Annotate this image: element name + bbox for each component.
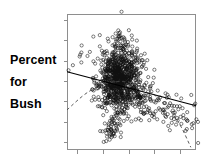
scatter-point <box>147 76 150 79</box>
scatter-point <box>131 45 134 48</box>
scatter-point <box>154 110 157 113</box>
scatter-point <box>134 105 137 108</box>
scatter-point <box>143 52 146 55</box>
scatter-point <box>126 117 129 120</box>
scatter-point <box>190 93 193 96</box>
scatter-point <box>170 121 173 124</box>
scatter-point <box>80 44 83 47</box>
scatter-point <box>98 45 101 48</box>
scatter-point <box>130 58 133 61</box>
scatter-point <box>92 35 95 38</box>
scatter-point <box>114 32 117 35</box>
x-axis-tick <box>103 150 104 154</box>
scatter-point <box>130 34 133 37</box>
x-axis-tick <box>77 150 78 154</box>
scatter-point <box>119 135 122 138</box>
scatter-point <box>90 99 93 102</box>
scatter-point <box>103 122 106 125</box>
scatter-point <box>175 93 178 96</box>
scatter-point <box>143 99 146 102</box>
scatter-point <box>135 39 138 42</box>
scatter-point <box>134 118 137 121</box>
scatter-point <box>106 52 109 55</box>
plot-area <box>67 14 196 150</box>
scatter-point <box>100 63 103 66</box>
scatter-point <box>98 34 101 37</box>
scatter-point <box>146 59 149 62</box>
scatter-point <box>101 130 104 133</box>
scatter-point <box>86 54 89 57</box>
scatter-point <box>80 61 83 64</box>
scatter-point <box>180 97 183 100</box>
scatter-point <box>120 10 123 13</box>
scatter-point <box>148 119 151 122</box>
scatter-point <box>92 95 95 98</box>
scatter-point <box>153 68 156 71</box>
scatter-point <box>181 107 184 110</box>
scatter-point <box>139 110 142 113</box>
scatter-point <box>162 120 165 123</box>
scatter-point <box>168 129 171 132</box>
scatter-point <box>100 98 103 101</box>
scatter-point <box>136 61 139 64</box>
scatter-point <box>96 57 99 60</box>
scatter-point <box>167 124 170 127</box>
scatter-point <box>186 111 189 114</box>
scatter-point <box>127 29 130 32</box>
scatter-point <box>119 131 122 134</box>
scatter-point <box>156 89 159 92</box>
scatter-point <box>94 98 97 101</box>
scatter-point <box>92 60 95 63</box>
scatter-point <box>102 114 105 117</box>
scatter-point <box>118 31 121 34</box>
scatter-point <box>131 38 134 41</box>
scatter-point <box>174 123 177 126</box>
y-axis-label: Percent for Bush <box>10 54 66 111</box>
y-axis-label-line-2: for <box>10 76 66 89</box>
x-axis-tick <box>180 150 181 154</box>
y-axis-label-line-1: Percent <box>10 54 66 67</box>
scatter-point <box>78 55 81 58</box>
scatter-point <box>177 108 180 111</box>
scatter-point <box>130 120 133 123</box>
scatter-point <box>105 110 108 113</box>
scatter-point <box>100 49 103 52</box>
scatter-point <box>152 113 155 116</box>
scatter-point <box>94 62 97 65</box>
scatter-point <box>136 47 139 50</box>
y-axis-label-line-3: Bush <box>10 98 66 111</box>
scatter-point <box>144 67 147 70</box>
scatter-point <box>117 51 120 54</box>
scatter-point <box>138 105 141 108</box>
scatter-point <box>139 54 142 57</box>
scatter-point <box>137 117 140 120</box>
scatter-point <box>71 64 74 67</box>
scatter-plot-figure: Percent for Bush <box>0 0 210 168</box>
scatter-point <box>156 118 159 121</box>
x-axis-tick <box>129 150 130 154</box>
scatter-point <box>94 75 97 78</box>
scatter-point <box>152 76 155 79</box>
scatter-point <box>100 59 103 62</box>
scatter-point <box>182 114 185 117</box>
scatter-point <box>151 82 154 85</box>
scatter-point <box>111 36 114 39</box>
scatter-point <box>139 119 142 122</box>
scatter-point <box>171 109 174 112</box>
scatter-point <box>88 50 91 53</box>
x-axis-tick <box>154 150 155 154</box>
scatter-point <box>195 118 198 121</box>
scatter-point <box>191 127 194 130</box>
scatter-point <box>197 141 200 144</box>
scatter-point <box>122 119 125 122</box>
data-layer <box>67 14 196 150</box>
scatter-point <box>164 115 167 118</box>
scatter-point <box>182 117 185 120</box>
